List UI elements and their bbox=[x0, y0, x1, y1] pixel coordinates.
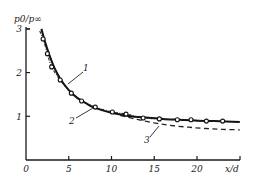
axes bbox=[26, 27, 240, 160]
data-point-marker bbox=[204, 119, 208, 123]
data-point-marker bbox=[50, 65, 54, 69]
data-point-marker bbox=[124, 112, 128, 116]
y-tick-label: 3 bbox=[16, 24, 22, 34]
x-tick-label: 10 bbox=[106, 164, 118, 174]
leader-line-3 bbox=[150, 126, 159, 137]
data-point-marker bbox=[141, 116, 145, 120]
data-point-marker bbox=[69, 91, 73, 95]
data-point-marker bbox=[175, 118, 179, 122]
data-point-marker bbox=[41, 37, 45, 41]
leader-line-2 bbox=[76, 108, 93, 118]
x-axis-title: x/d bbox=[225, 164, 239, 174]
data-point-marker bbox=[93, 105, 97, 109]
curve-label-2: 2 bbox=[68, 116, 75, 126]
curves bbox=[40, 29, 240, 130]
curve-1 bbox=[41, 29, 239, 122]
curve-2 bbox=[40, 31, 223, 121]
curve-label-1: 1 bbox=[83, 63, 89, 73]
data-point-marker bbox=[157, 117, 161, 121]
curve-labels: 1 2 3 bbox=[68, 63, 159, 145]
data-point-marker bbox=[58, 78, 62, 82]
y-tick-label: 2 bbox=[15, 68, 22, 78]
x-tick-label: 0 bbox=[23, 164, 29, 174]
curve-label-3: 3 bbox=[144, 135, 150, 145]
y-ticks: 123 bbox=[15, 24, 30, 121]
data-point-marker bbox=[110, 110, 114, 114]
chart: 05101520 123 p0/p∞ x/d 1 2 3 bbox=[0, 0, 255, 186]
data-point-marker bbox=[221, 119, 225, 123]
leader-line-1 bbox=[68, 72, 83, 84]
x-tick-label: 15 bbox=[149, 164, 161, 174]
data-point-marker bbox=[189, 118, 193, 122]
x-tick-label: 5 bbox=[66, 164, 72, 174]
data-point-marker bbox=[80, 99, 84, 103]
markers bbox=[41, 37, 225, 123]
y-axis-title: p0/p∞ bbox=[14, 14, 42, 24]
x-ticks: 05101520 bbox=[23, 156, 240, 174]
x-tick-label: 20 bbox=[190, 164, 203, 174]
y-tick-label: 1 bbox=[16, 112, 22, 122]
data-point-marker bbox=[45, 52, 49, 56]
